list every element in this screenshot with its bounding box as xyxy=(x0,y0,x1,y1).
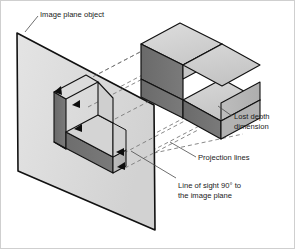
label-lost-depth-line2: dimension xyxy=(234,122,269,131)
label-line-of-sight-line1: Line of sight 90° to xyxy=(178,181,241,190)
label-lost-depth-line1: Lost depth xyxy=(234,112,269,121)
figure-canvas: Image plane object Lost depth dimension … xyxy=(0,0,295,249)
leader-projection-lines xyxy=(170,142,196,157)
leader-image-plane-object xyxy=(25,16,38,32)
projection-diagram: Image plane object Lost depth dimension … xyxy=(0,0,295,249)
label-projection-lines: Projection lines xyxy=(198,153,250,162)
flat-shape-left-dark-face xyxy=(54,92,66,149)
label-image-plane-object: Image plane object xyxy=(40,10,105,19)
label-line-of-sight-line2: the image plane xyxy=(178,191,232,200)
